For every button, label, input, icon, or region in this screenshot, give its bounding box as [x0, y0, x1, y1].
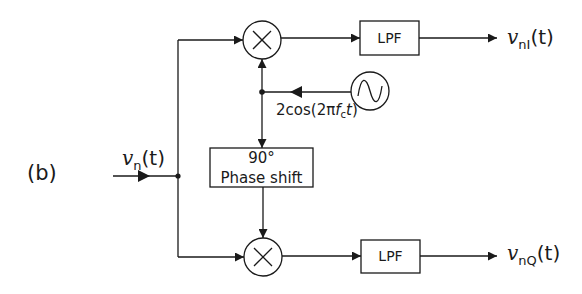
input-signal-label: vn(t) [122, 148, 165, 172]
top-lpf-label: LPF [360, 28, 419, 48]
oscillator-arrow-icon [290, 86, 302, 98]
sine-wave-icon [358, 80, 382, 101]
output-quadrature-label: vnQ(t) [507, 243, 560, 267]
oscillator-signal-label: 2cos(2πfct) [276, 103, 358, 120]
phase-shift-label: 90° Phase shift [210, 148, 313, 188]
panel-label: (b) [27, 163, 57, 184]
block-diagram [0, 0, 582, 294]
bottom-lpf-label: LPF [361, 246, 420, 266]
output-in-phase-label: vnI(t) [507, 27, 554, 51]
